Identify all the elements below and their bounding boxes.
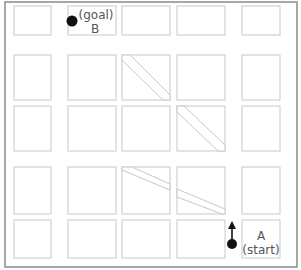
goal-letter: B: [91, 22, 99, 36]
start-marker-dot: [227, 239, 237, 249]
street-map: (goal) B A (start): [0, 0, 301, 270]
start-letter: A: [257, 229, 266, 243]
start-caption: (start): [242, 243, 279, 257]
goal-caption: (goal): [78, 8, 113, 22]
map-frame: [5, 2, 297, 267]
goal-marker-dot: [67, 16, 78, 27]
